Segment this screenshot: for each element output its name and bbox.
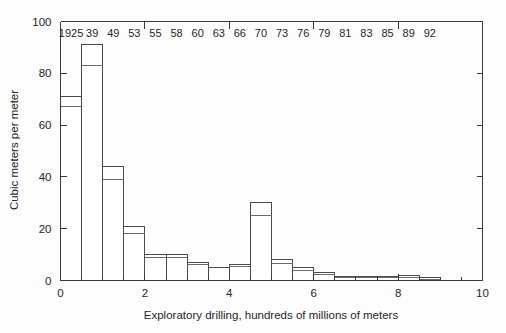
bar-85	[377, 277, 398, 281]
y-tick-label-60: 60	[39, 119, 52, 131]
bar-year-label-81: 81	[339, 27, 351, 39]
y-tick-label-0: 0	[45, 275, 51, 287]
bar-year-label-63: 63	[213, 27, 225, 39]
bar-year-label-55: 55	[149, 27, 161, 39]
bar-year-label-39: 39	[86, 27, 98, 39]
bar-year-label-73: 73	[276, 27, 288, 39]
bar-year-label-83: 83	[360, 27, 372, 39]
bar-39	[82, 45, 103, 281]
bar-year-label-79: 79	[318, 27, 330, 39]
bar-outline-49	[103, 167, 124, 281]
bar-top-year-labels: 19253949535558606366707376798183858992	[59, 27, 436, 39]
bar-60	[187, 262, 208, 280]
x-tick-label-0: 0	[57, 287, 63, 299]
bars-group	[61, 45, 441, 281]
x-tick-label-10: 10	[476, 287, 489, 299]
bar-outline-85	[377, 277, 398, 281]
x-axis-title: Exploratory drilling, hundreds of millio…	[144, 309, 399, 321]
y-tick-label-20: 20	[39, 223, 52, 235]
bar-49	[103, 167, 124, 281]
bar-year-label-70: 70	[255, 27, 267, 39]
bar-year-label-85: 85	[381, 27, 393, 39]
x-tick-label-8: 8	[395, 287, 401, 299]
bar-70	[250, 203, 271, 281]
x-tick-label-6: 6	[310, 287, 316, 299]
bar-outline-55	[145, 255, 166, 281]
bar-66	[229, 265, 250, 281]
bar-58	[166, 255, 187, 281]
y-tick-label-40: 40	[39, 171, 52, 183]
bar-55	[145, 255, 166, 281]
bar-outline-83	[356, 277, 377, 281]
y-tick-label-100: 100	[32, 16, 51, 28]
y-tick-label-80: 80	[39, 67, 52, 79]
bar-53	[124, 226, 145, 280]
bar-year-label-53: 53	[128, 27, 140, 39]
bar-outline-81	[335, 277, 356, 281]
bar-year-label-60: 60	[192, 27, 204, 39]
bar-year-label-92: 92	[424, 27, 436, 39]
bar-year-label-58: 58	[170, 27, 182, 39]
bar-outline-1925	[61, 97, 82, 281]
bar-76	[293, 268, 314, 281]
bar-year-label-66: 66	[234, 27, 246, 39]
bar-63	[208, 268, 229, 281]
bar-year-label-76: 76	[297, 27, 309, 39]
chart-figure: 0246810 020406080100 1925394953555860636…	[0, 0, 506, 333]
x-tick-label-4: 4	[226, 287, 233, 299]
bar-year-label-1925: 1925	[59, 27, 83, 39]
bar-year-label-89: 89	[403, 27, 415, 39]
bar-89	[398, 275, 419, 280]
bar-outline-70	[250, 203, 271, 281]
bar-83	[356, 277, 377, 281]
bar-outline-66	[229, 265, 250, 281]
bar-1925	[61, 97, 82, 281]
y-axis-title: Cubic meters per meter	[8, 90, 20, 210]
bar-79	[314, 273, 335, 281]
x-tick-labels: 0246810	[57, 287, 489, 299]
bar-year-label-49: 49	[107, 27, 119, 39]
bar-outline-58	[166, 255, 187, 281]
bar-outline-39	[82, 45, 103, 281]
x-tick-label-2: 2	[142, 287, 148, 299]
histogram-plot: 0246810 020406080100 1925394953555860636…	[0, 0, 506, 333]
bar-81	[335, 277, 356, 281]
y-tick-labels: 020406080100	[32, 16, 51, 287]
bar-73	[272, 260, 293, 281]
bar-outline-76	[293, 268, 314, 281]
bar-outline-73	[272, 260, 293, 281]
bar-outline-63	[208, 268, 229, 281]
